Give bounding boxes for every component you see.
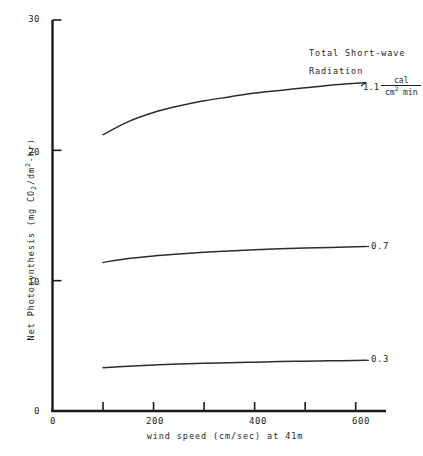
x-tick-marks	[103, 402, 356, 411]
y-axis-title-sup: 2	[24, 162, 32, 167]
y-axis-title-mid: /dm	[26, 167, 36, 185]
x-tick-label-0: 0	[38, 416, 68, 426]
y-tick-marks	[53, 20, 62, 281]
label-leader-lines	[361, 83, 369, 361]
y-axis-title-suffix: -hr)	[26, 138, 36, 162]
curve-label-0point3: 0.3	[371, 354, 389, 364]
unit-denominator-base: cm	[385, 88, 395, 97]
unit-denominator-tail: min	[398, 88, 417, 97]
x-tick-label-200: 200	[140, 416, 170, 426]
y-tick-label-0: 0	[14, 406, 40, 416]
unit-fraction: cal cm2 min	[381, 77, 421, 97]
y-tick-label-30: 30	[14, 14, 40, 24]
axes-group	[51, 20, 386, 412]
legend-title-line1: Total Short-wave	[309, 48, 405, 58]
radiation-unit-annotation: 1.1 cal cm2 min	[363, 77, 421, 97]
curve-1point1	[103, 83, 366, 135]
legend-title-line2: Radiation	[309, 66, 363, 76]
chart-figure: 30 20 10 0 0 200 400 600 wind speed (cm/…	[0, 0, 423, 456]
y-axis-title-sub: 2	[30, 185, 38, 190]
x-tick-label-600: 600	[346, 416, 376, 426]
unit-denominator: cm2 min	[384, 86, 419, 97]
curve-0point3	[103, 360, 366, 367]
radiation-magnitude-label: 1.1	[363, 82, 379, 92]
x-tick-label-400: 400	[243, 416, 273, 426]
x-axis-title: wind speed (cm/sec) at 41m	[60, 431, 390, 441]
y-axis-title-prefix: Net Photosynthesis (mg CO	[26, 190, 36, 340]
curve-0point7	[103, 247, 366, 263]
data-curves	[103, 83, 366, 368]
unit-numerator: cal	[393, 77, 409, 85]
curve-label-0point7: 0.7	[371, 241, 389, 251]
y-axis-title: Net Photosynthesis (mg CO2/dm2-hr)	[24, 89, 39, 389]
